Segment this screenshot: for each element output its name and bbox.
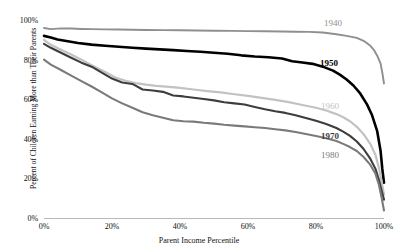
x-tick-60: 60% bbox=[228, 222, 268, 231]
x-tick-0: 0% bbox=[24, 222, 64, 231]
series-label-1940: 1940 bbox=[324, 18, 342, 28]
series-label-1960: 1960 bbox=[321, 101, 339, 111]
series-line-1940 bbox=[44, 28, 384, 84]
series-label-1970: 1970 bbox=[321, 131, 339, 141]
x-tick-40: 40% bbox=[160, 222, 200, 231]
series-label-1980: 1980 bbox=[321, 150, 339, 160]
series-label-1950: 1950 bbox=[320, 58, 338, 68]
line-chart-plot bbox=[0, 0, 398, 250]
y-axis-title: Percent of Children Earning More than Th… bbox=[29, 9, 38, 209]
x-tick-80: 80% bbox=[296, 222, 336, 231]
x-tick-20: 20% bbox=[92, 222, 132, 231]
chart-container: 100% 80% 60% 40% 20% 0% 0% 20% 40% 60% 8… bbox=[0, 0, 398, 250]
x-axis-title: Parent Income Percentile bbox=[0, 236, 398, 245]
series-lines-layer bbox=[44, 28, 384, 211]
x-tick-100: 100% bbox=[364, 222, 398, 231]
